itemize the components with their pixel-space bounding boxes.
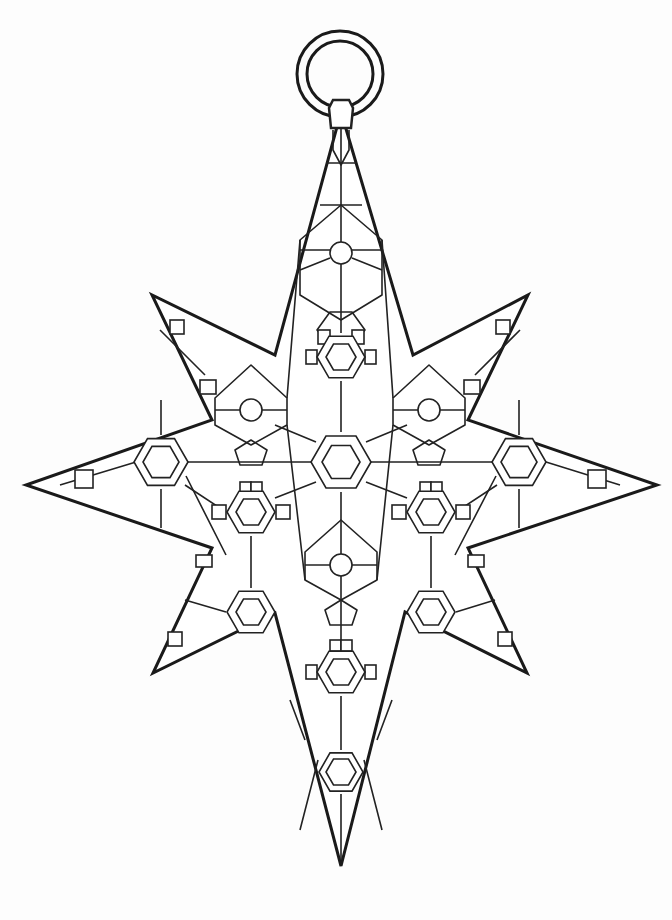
hexagon-inner-left-tip [143, 446, 179, 477]
circle-node-2 [418, 399, 440, 421]
hexagon-inner-lower [326, 659, 356, 685]
star-ornament-drawing [0, 0, 672, 920]
hexagon-inner-right-tip [501, 446, 537, 477]
circle-node-1 [240, 399, 262, 421]
circle-node-0 [330, 242, 352, 264]
circle-node-3 [330, 554, 352, 576]
hexagon-inner-upper [326, 344, 356, 370]
hexagon-inner-left-mid [236, 499, 266, 525]
hanger-cap-icon [329, 100, 353, 128]
hexagon-inner-right-mid [416, 499, 446, 525]
hexagon-inner-bottom [326, 759, 356, 785]
hexagon-inner-lower-left [236, 599, 266, 625]
hexagon-inner-lower-right [416, 599, 446, 625]
